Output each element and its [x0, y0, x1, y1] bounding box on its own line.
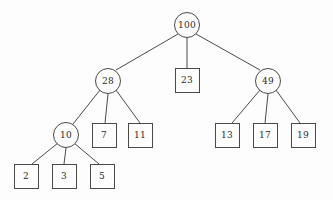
tree-node-5[interactable]: 5: [90, 164, 115, 189]
tree-node-label: 2: [23, 171, 29, 180]
tree-node-23[interactable]: 23: [175, 68, 200, 93]
tree-edge: [73, 90, 100, 124]
tree-node-11[interactable]: 11: [128, 123, 153, 148]
tree-edge: [64, 148, 66, 164]
tree-node-label: 49: [262, 76, 274, 85]
tree-edge: [232, 90, 260, 123]
tree-node-label: 3: [61, 171, 67, 180]
tree-edge: [196, 34, 260, 70]
tree-node-label: 13: [221, 130, 233, 139]
tree-node-label: 17: [259, 130, 271, 139]
tree-node-label: 19: [297, 130, 309, 139]
tree-edges: [0, 0, 333, 200]
tree-node-2[interactable]: 2: [14, 164, 39, 189]
tree-node-49[interactable]: 49: [255, 68, 281, 94]
tree-node-13[interactable]: 13: [215, 123, 240, 148]
tree-node-label: 100: [178, 20, 196, 29]
tree-node-label: 23: [181, 75, 193, 84]
tree-edge: [105, 94, 108, 123]
tree-node-7[interactable]: 7: [92, 123, 117, 148]
tree-node-label: 10: [60, 130, 72, 139]
tree-node-100[interactable]: 100: [174, 12, 200, 38]
tree-diagram: 10028234910711131719235: [0, 0, 333, 200]
tree-node-10[interactable]: 10: [53, 122, 79, 148]
tree-node-17[interactable]: 17: [253, 123, 278, 148]
tree-node-label: 11: [134, 130, 146, 139]
tree-node-28[interactable]: 28: [95, 68, 121, 94]
tree-node-label: 28: [102, 76, 114, 85]
tree-edge: [32, 143, 58, 164]
tree-edge: [116, 90, 140, 123]
tree-edge: [265, 94, 268, 123]
tree-node-3[interactable]: 3: [52, 164, 77, 189]
tree-node-19[interactable]: 19: [291, 123, 316, 148]
tree-node-label: 7: [101, 130, 107, 139]
tree-edge: [276, 90, 300, 123]
tree-node-label: 5: [99, 171, 105, 180]
tree-edge: [116, 34, 178, 70]
